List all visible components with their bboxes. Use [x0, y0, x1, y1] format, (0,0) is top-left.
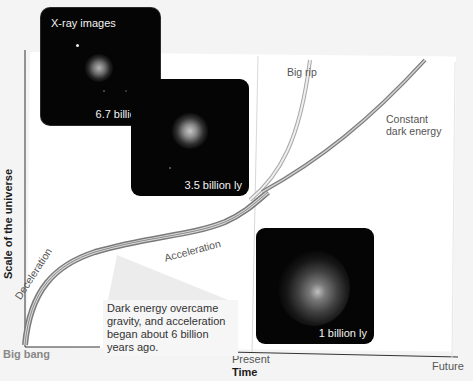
x-axis-title: Time — [232, 366, 257, 378]
label-big-rip: Big rip — [287, 66, 317, 78]
xray-image-3-5-billion-ly: 3.5 billion ly — [131, 79, 249, 196]
xray-image-1-billion-ly: 1 billion ly — [256, 228, 374, 344]
xray-caption: 3.5 billion ly — [185, 179, 242, 191]
cluster-glow — [278, 250, 350, 326]
label-constant-dark-energy: Constant dark energy — [386, 113, 441, 137]
cluster-glow — [171, 113, 209, 149]
tick-future: Future — [432, 360, 464, 372]
big-rip-curve — [250, 60, 310, 200]
callout-text: Dark energy overcame gravity, and accele… — [103, 300, 238, 356]
y-axis-title: Scale of the universe — [2, 164, 14, 284]
point-source — [76, 44, 79, 47]
xray-images-title: X-ray images — [51, 17, 116, 29]
xray-caption: 1 billion ly — [319, 327, 367, 339]
cluster-glow — [85, 54, 113, 82]
tick-big-bang: Big bang — [3, 348, 50, 360]
